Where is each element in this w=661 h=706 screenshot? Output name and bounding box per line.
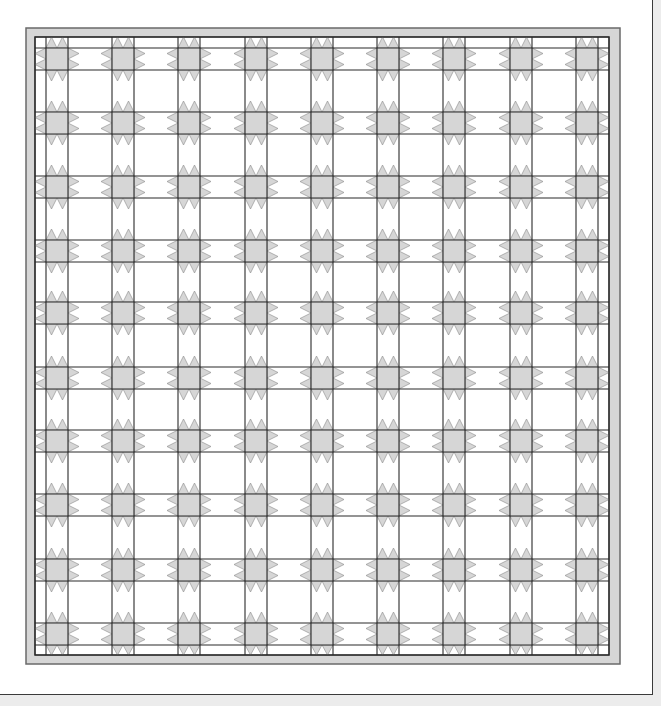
star-center bbox=[377, 623, 399, 645]
star-center bbox=[178, 367, 200, 389]
quilt-diagram bbox=[0, 0, 661, 706]
star-center bbox=[510, 623, 532, 645]
star-center bbox=[311, 112, 333, 134]
star-center bbox=[443, 623, 465, 645]
star-center bbox=[510, 559, 532, 581]
star-center bbox=[510, 494, 532, 516]
star-center bbox=[377, 176, 399, 198]
star-center bbox=[510, 367, 532, 389]
star-center bbox=[443, 176, 465, 198]
star-center bbox=[576, 302, 598, 324]
star-center bbox=[245, 48, 267, 70]
star-center bbox=[178, 559, 200, 581]
star-center bbox=[245, 559, 267, 581]
star-center bbox=[510, 302, 532, 324]
star-center bbox=[311, 48, 333, 70]
star-center bbox=[46, 559, 68, 581]
star-center bbox=[576, 623, 598, 645]
star-center bbox=[377, 494, 399, 516]
star-center bbox=[576, 559, 598, 581]
star-center bbox=[46, 430, 68, 452]
star-center bbox=[311, 430, 333, 452]
star-center bbox=[443, 494, 465, 516]
star-center bbox=[510, 48, 532, 70]
star-center bbox=[245, 623, 267, 645]
star-center bbox=[443, 367, 465, 389]
star-center bbox=[178, 112, 200, 134]
star-center bbox=[245, 240, 267, 262]
star-center bbox=[112, 367, 134, 389]
star-center bbox=[576, 112, 598, 134]
star-center bbox=[443, 48, 465, 70]
star-center bbox=[178, 494, 200, 516]
star-center bbox=[46, 112, 68, 134]
star-center bbox=[311, 367, 333, 389]
star-center bbox=[510, 430, 532, 452]
star-center bbox=[178, 176, 200, 198]
star-center bbox=[112, 559, 134, 581]
star-center bbox=[178, 302, 200, 324]
star-center bbox=[576, 494, 598, 516]
star-center bbox=[443, 302, 465, 324]
star-center bbox=[576, 367, 598, 389]
star-center bbox=[245, 494, 267, 516]
star-center bbox=[443, 112, 465, 134]
star-center bbox=[377, 112, 399, 134]
star-center bbox=[311, 240, 333, 262]
star-center bbox=[377, 240, 399, 262]
star-center bbox=[178, 48, 200, 70]
star-center bbox=[311, 176, 333, 198]
star-center bbox=[311, 623, 333, 645]
star-center bbox=[46, 48, 68, 70]
star-center bbox=[112, 240, 134, 262]
star-center bbox=[576, 240, 598, 262]
star-center bbox=[245, 176, 267, 198]
star-center bbox=[377, 302, 399, 324]
star-center bbox=[377, 48, 399, 70]
star-center bbox=[377, 559, 399, 581]
star-center bbox=[245, 367, 267, 389]
star-center bbox=[178, 623, 200, 645]
star-center bbox=[112, 430, 134, 452]
star-center bbox=[443, 559, 465, 581]
star-center bbox=[112, 48, 134, 70]
star-center bbox=[46, 240, 68, 262]
star-center bbox=[46, 623, 68, 645]
star-center bbox=[510, 176, 532, 198]
star-center bbox=[443, 240, 465, 262]
star-center bbox=[377, 430, 399, 452]
star-center bbox=[112, 176, 134, 198]
diagram-panel bbox=[0, 0, 653, 695]
star-center bbox=[510, 240, 532, 262]
star-center bbox=[46, 494, 68, 516]
star-center bbox=[576, 430, 598, 452]
star-center bbox=[112, 494, 134, 516]
star-center bbox=[443, 430, 465, 452]
star-center bbox=[576, 48, 598, 70]
star-center bbox=[112, 302, 134, 324]
star-center bbox=[178, 240, 200, 262]
star-center bbox=[576, 176, 598, 198]
star-center bbox=[46, 176, 68, 198]
star-center bbox=[245, 430, 267, 452]
star-center bbox=[311, 302, 333, 324]
star-center bbox=[46, 302, 68, 324]
star-center bbox=[112, 112, 134, 134]
star-center bbox=[112, 623, 134, 645]
star-center bbox=[510, 112, 532, 134]
star-center bbox=[377, 367, 399, 389]
star-center bbox=[245, 112, 267, 134]
star-center bbox=[46, 367, 68, 389]
star-center bbox=[311, 559, 333, 581]
star-center bbox=[311, 494, 333, 516]
star-center bbox=[178, 430, 200, 452]
star-center bbox=[245, 302, 267, 324]
